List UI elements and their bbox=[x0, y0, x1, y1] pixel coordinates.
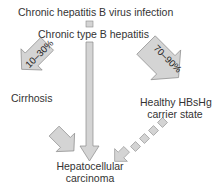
hcc-line-2: carcinoma bbox=[55, 172, 125, 184]
carrier-line-2: carrier state bbox=[140, 108, 210, 120]
node-chronic-hepatitis: Chronic type B hepatitis bbox=[38, 28, 149, 40]
node-hbv-infection: Chronic hepatitis B virus infection bbox=[18, 6, 173, 18]
node-hepatocellular-carcinoma: Hepatocellular carcinoma bbox=[55, 160, 125, 184]
node-carrier-state: Healthy HBsHg carrier state bbox=[140, 96, 210, 120]
arrow-hepatitis-to-hcc bbox=[80, 42, 99, 161]
connector-infection-to-hepatitis bbox=[86, 21, 93, 27]
arrow-cirrhosis-to-hcc bbox=[45, 122, 83, 160]
hbv-progression-diagram: 10–30% 70–90% Chronic hepatitis B virus … bbox=[0, 0, 219, 188]
node-cirrhosis: Cirrhosis bbox=[11, 92, 52, 104]
hcc-line-1: Hepatocellular bbox=[55, 160, 125, 172]
carrier-line-1: Healthy HBsHg bbox=[140, 96, 210, 108]
